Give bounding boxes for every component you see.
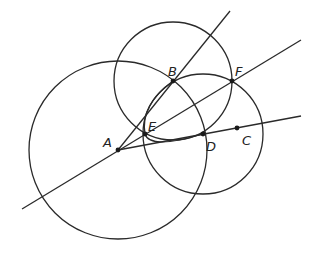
point-label-a: A <box>102 135 112 150</box>
point-e <box>143 132 148 137</box>
point-a <box>116 148 121 153</box>
point-f <box>230 79 235 84</box>
point-c <box>235 126 240 131</box>
point-label-b: B <box>168 64 177 79</box>
point-label-e: E <box>148 119 157 134</box>
line-through-A-E-F <box>22 40 301 209</box>
point-label-f: F <box>235 64 243 79</box>
diagram-canvas: ABFEDC <box>0 0 316 257</box>
point-label-d: D <box>206 139 216 154</box>
point-b <box>171 79 176 84</box>
geometry-diagram: ABFEDC <box>0 0 316 257</box>
point-d <box>201 132 206 137</box>
point-label-c: C <box>242 133 252 148</box>
